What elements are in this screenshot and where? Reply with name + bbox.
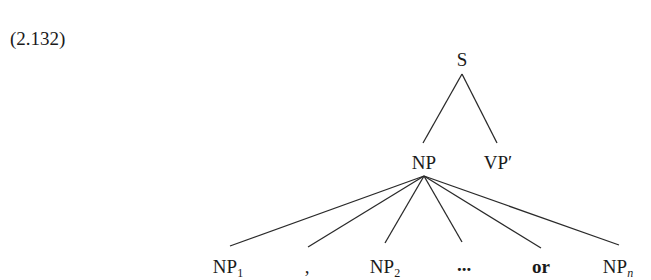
node-np2: NP2 <box>370 257 400 279</box>
edge-s-vp <box>462 74 497 143</box>
edge-np-np2 <box>385 176 424 243</box>
node-np2-subscript: 2 <box>394 266 400 280</box>
node-or: or <box>532 257 550 276</box>
node-npn: NPn <box>603 257 633 279</box>
edge-np-npn <box>424 176 619 245</box>
node-npn-base: NP <box>603 256 627 277</box>
node-np2-base: NP <box>370 256 394 277</box>
node-npn-subscript: n <box>627 266 633 280</box>
node-ellipsis: ... <box>457 255 471 274</box>
edge-s-np <box>423 74 462 143</box>
node-np1-subscript: 1 <box>237 266 243 280</box>
node-s: S <box>457 50 468 69</box>
node-np1: NP1 <box>213 257 243 279</box>
edge-np-or <box>424 176 541 248</box>
node-comma: , <box>305 257 310 276</box>
edge-np-ellipsis <box>424 176 462 242</box>
tree-edges <box>0 0 651 280</box>
node-np: NP <box>412 153 436 172</box>
node-np1-base: NP <box>213 256 237 277</box>
node-vp-prime: VP′ <box>484 153 512 172</box>
